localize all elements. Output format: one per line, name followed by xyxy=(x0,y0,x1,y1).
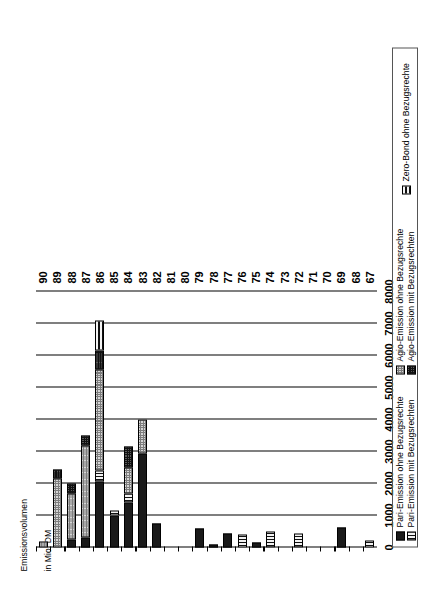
category-label: 72 xyxy=(293,271,305,283)
bar-segment xyxy=(95,369,104,470)
legend-swatch-icon xyxy=(407,365,416,374)
bar-segment xyxy=(95,320,104,350)
category-label: 86 xyxy=(94,271,106,283)
bar-segment xyxy=(124,502,133,547)
category-label: 80 xyxy=(179,271,191,283)
category-label: 84 xyxy=(122,271,134,283)
bar-segment xyxy=(195,528,204,547)
bar-segment xyxy=(67,539,76,547)
bar-segment xyxy=(124,493,133,503)
legend-item[interactable]: Agio-Emission ohne Bezugsrechte xyxy=(395,228,405,374)
bar-row xyxy=(337,291,346,547)
plot-area: 0100020003000400050006000700080006768697… xyxy=(36,291,377,547)
category-tick xyxy=(363,546,364,551)
category-label: 88 xyxy=(66,271,78,283)
bar-segment xyxy=(238,534,247,547)
bar-segment xyxy=(209,544,218,547)
category-label: 78 xyxy=(208,271,220,283)
legend-label: Agio-Emission mit Bezugsrechten xyxy=(406,231,416,361)
category-tick xyxy=(121,546,122,551)
bar-segment xyxy=(81,537,90,547)
bar-row xyxy=(181,291,190,547)
category-label: 81 xyxy=(165,271,177,283)
bar-segment xyxy=(337,527,346,547)
category-tick xyxy=(263,546,264,551)
category-label: 73 xyxy=(279,271,291,283)
bar-row xyxy=(166,291,175,547)
bar-row xyxy=(39,291,48,547)
chart-legend: Pari-Emission ohne BezugsrechtePari-Emis… xyxy=(392,47,418,547)
category-tick xyxy=(164,546,165,551)
bar-row xyxy=(138,291,147,547)
category-label: 87 xyxy=(80,271,92,283)
chart-page: Emissionsvolumen in Mio. DM 010002000300… xyxy=(0,0,426,591)
category-tick xyxy=(306,546,307,551)
bar-row xyxy=(209,291,218,547)
category-tick xyxy=(50,546,51,551)
legend-label: Agio-Emission ohne Bezugsrechte xyxy=(395,228,405,361)
legend-swatch-icon xyxy=(407,531,416,540)
category-label: 75 xyxy=(250,271,262,283)
category-tick xyxy=(93,546,94,551)
category-label: 70 xyxy=(321,271,333,283)
legend-swatch-icon xyxy=(396,531,405,540)
category-label: 67 xyxy=(364,271,376,283)
bar-segment xyxy=(53,478,62,547)
category-tick xyxy=(334,546,335,551)
bar-row xyxy=(67,291,76,547)
category-label: 82 xyxy=(151,271,163,283)
legend-item[interactable]: Pari-Emission ohne Bezugsrechte xyxy=(395,396,405,540)
bar-segment xyxy=(53,469,62,479)
bar-segment xyxy=(95,350,104,369)
bar-row xyxy=(323,291,332,547)
bar-segment xyxy=(124,446,133,467)
bar-segment xyxy=(67,483,76,493)
category-label: 69 xyxy=(335,271,347,283)
category-tick xyxy=(178,546,179,551)
category-label: 85 xyxy=(108,271,120,283)
legend-item[interactable]: Pari-Emission mit Bezugsrechten xyxy=(406,399,416,540)
bar-segment xyxy=(110,510,119,515)
category-label: 90 xyxy=(37,271,49,283)
bar-row xyxy=(152,291,161,547)
bar-segment xyxy=(365,540,374,547)
category-tick xyxy=(278,546,279,551)
bar-row xyxy=(195,291,204,547)
category-tick xyxy=(192,546,193,551)
bar-segment xyxy=(95,481,104,547)
category-tick xyxy=(36,546,37,551)
category-label: 79 xyxy=(193,271,205,283)
category-tick xyxy=(292,546,293,551)
bar-row xyxy=(53,291,62,547)
bar-row xyxy=(110,291,119,547)
legend-label: Pari-Emission mit Bezugsrechten xyxy=(406,399,416,527)
category-tick xyxy=(107,546,108,551)
category-tick xyxy=(135,546,136,551)
bar-row xyxy=(280,291,289,547)
legend-label: Pari-Emission ohne Bezugsrechte xyxy=(395,396,405,527)
bar-row xyxy=(309,291,318,547)
bar-row xyxy=(294,291,303,547)
bar-segment xyxy=(124,467,133,493)
category-tick xyxy=(349,546,350,551)
category-label: 68 xyxy=(350,271,362,283)
category-label: 76 xyxy=(236,271,248,283)
legend-swatch-icon xyxy=(396,365,405,374)
category-tick xyxy=(320,546,321,551)
category-tick xyxy=(249,546,250,551)
legend-swatch-icon xyxy=(402,185,411,194)
category-tick xyxy=(221,546,222,551)
bar-segment xyxy=(223,533,232,547)
category-label: 77 xyxy=(222,271,234,283)
bar-segment xyxy=(138,419,147,453)
bar-segment xyxy=(152,523,161,547)
category-label: 71 xyxy=(307,271,319,283)
legend-item[interactable]: Agio-Emission mit Bezugsrechten xyxy=(406,231,416,374)
bar-segment xyxy=(110,515,119,547)
axis-title-line1: Emissionsvolumen xyxy=(18,499,30,571)
chart-figure: Emissionsvolumen in Mio. DM 010002000300… xyxy=(0,0,426,591)
bar-segment xyxy=(81,445,90,538)
legend-item[interactable]: Zero-Bond ohne Bezugsrechte xyxy=(401,63,411,194)
category-tick xyxy=(235,546,236,551)
category-tick xyxy=(64,546,65,551)
